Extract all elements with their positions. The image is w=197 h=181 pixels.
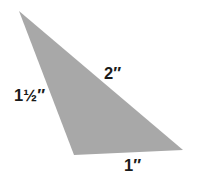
dimension-label-bottom-side: 1″ bbox=[124, 157, 141, 174]
dimension-label-hypotenuse: 2″ bbox=[104, 65, 121, 82]
geometry-figure: 1½″ 2″ 1″ bbox=[0, 0, 197, 181]
triangle-polygon bbox=[19, 11, 183, 155]
dimension-label-left-side: 1½″ bbox=[14, 87, 45, 104]
